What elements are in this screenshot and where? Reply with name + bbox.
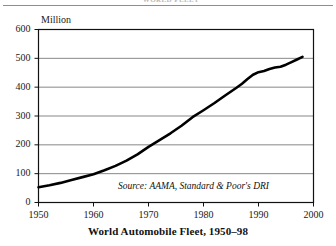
chart-page: WORLD FLEET Million 0100200300400500600 … [0,0,336,246]
x-tick-label-1950: 1950 [19,209,59,220]
y-tick-label-0: 0 [1,197,31,207]
x-tick-label-1990: 1990 [239,209,279,220]
data-series-0 [39,57,303,187]
y-tick-label-500: 500 [1,53,31,63]
y-tick-label-300: 300 [1,111,31,121]
x-tick-label-1970: 1970 [129,209,169,220]
y-tick-label-400: 400 [1,82,31,92]
x-tick-label-2000: 2000 [294,209,334,220]
y-tick-label-600: 600 [1,24,31,34]
x-tick-label-1960: 1960 [74,209,114,220]
y-tick-label-100: 100 [1,168,31,178]
y-tick-label-200: 200 [1,139,31,149]
x-tick-label-1980: 1980 [184,209,224,220]
line-chart: Million 0100200300400500600 195019601970… [0,0,336,246]
chart-source-annotation: Source: AAMA, Standard & Poor's DRI [118,181,269,191]
chart-caption: World Automobile Fleet, 1950–98 [0,225,336,237]
